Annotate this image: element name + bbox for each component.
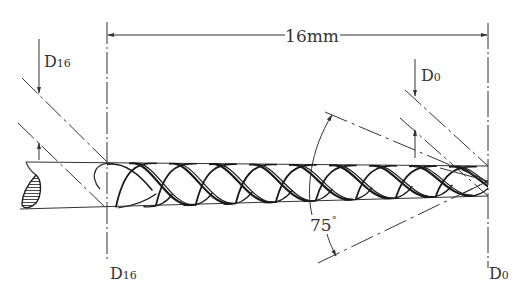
angle-label: 75° xyxy=(310,214,337,235)
flute-lead-curl xyxy=(94,163,114,189)
drill-bottom-edge xyxy=(20,196,488,209)
angle-upper-line xyxy=(325,112,488,181)
d0-bottom-label: D0 xyxy=(489,264,509,283)
d0-top-label: D0 xyxy=(421,66,441,85)
length-dimension-label: 16mm xyxy=(285,26,339,46)
d0-upper-slant xyxy=(405,90,488,166)
d16-top-label: D16 xyxy=(44,52,71,71)
shank-break-section xyxy=(22,175,41,208)
d16-bottom-label: D16 xyxy=(110,264,137,283)
shank-break-line xyxy=(26,162,36,175)
angle-arc-lower xyxy=(327,234,336,256)
d16-upper-slant xyxy=(22,78,107,162)
drill-flutes xyxy=(96,163,516,208)
drill-diagram: 16mm D16 D0 75° D16 xyxy=(0,0,520,297)
